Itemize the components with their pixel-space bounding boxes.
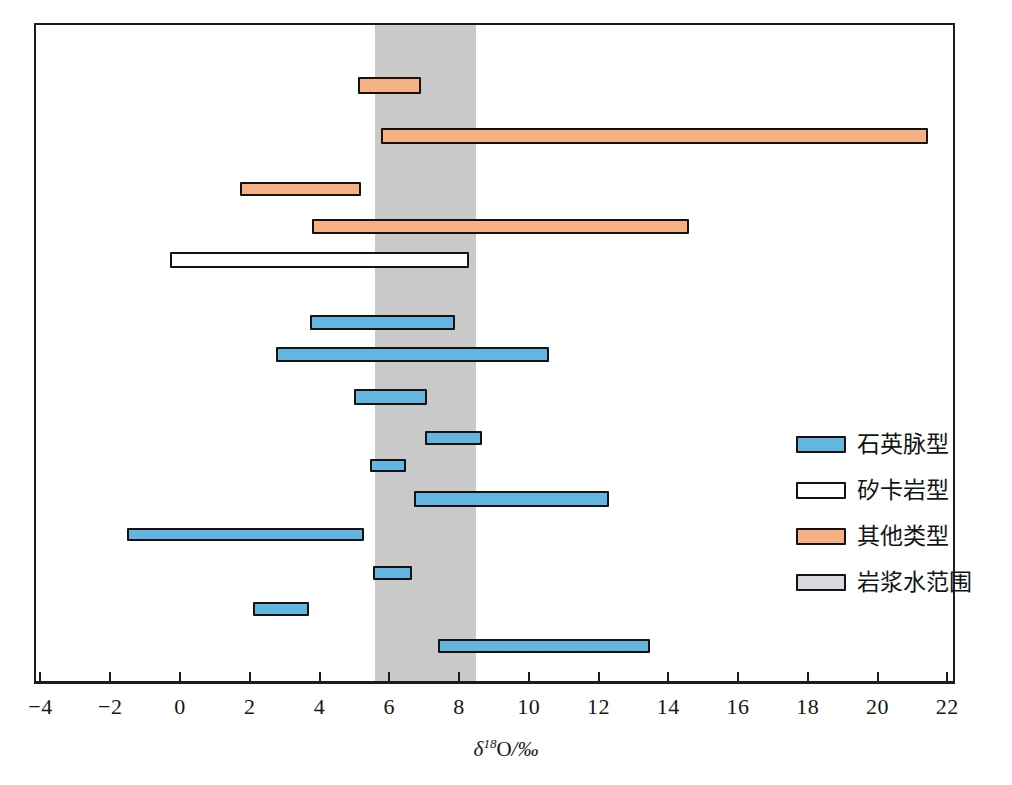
x-axis-tick — [109, 672, 111, 683]
range-bar — [240, 182, 361, 196]
x-axis-tick-label: 22 — [917, 694, 977, 720]
x-axis-tick-label: 8 — [429, 694, 489, 720]
x-axis-tick-label: 0 — [150, 694, 210, 720]
x-axis-tick-label: 6 — [359, 694, 419, 720]
x-axis-tick — [528, 672, 530, 683]
x-axis-tick — [667, 672, 669, 683]
x-axis-title: δ18O/‰ — [0, 736, 1012, 762]
range-bar — [253, 602, 308, 616]
range-bar — [276, 347, 548, 362]
x-axis-tick-label: 14 — [638, 694, 698, 720]
legend-label: 岩浆水范围 — [857, 571, 972, 594]
legend-label: 其他类型 — [857, 525, 949, 548]
legend-label: 石英脉型 — [857, 433, 949, 456]
delta-symbol: δ — [474, 737, 484, 761]
x-axis-tick-label: 10 — [499, 694, 559, 720]
range-bar — [425, 431, 482, 445]
x-axis-tick-label: 20 — [848, 694, 908, 720]
x-axis-tick — [807, 672, 809, 683]
legend-swatch — [796, 482, 846, 499]
x-axis-tick — [319, 672, 321, 683]
x-axis-tick — [737, 672, 739, 683]
range-bar — [373, 566, 412, 580]
isotope-superscript: 18 — [483, 736, 496, 751]
x-axis-tick — [458, 672, 460, 683]
x-axis-tick-label: 16 — [708, 694, 768, 720]
x-axis-tick — [249, 672, 251, 683]
x-axis-tick — [946, 672, 948, 683]
range-bar — [127, 528, 364, 541]
range-bar — [312, 219, 689, 234]
range-bar — [354, 389, 428, 405]
range-bar — [438, 639, 650, 653]
legend-swatch — [796, 528, 846, 545]
x-axis-tick-label: 4 — [290, 694, 350, 720]
x-axis-tick-label: −4 — [10, 694, 70, 720]
x-axis-tick-label: −2 — [80, 694, 140, 720]
range-bar — [358, 77, 421, 94]
legend-item[interactable]: 其他类型 — [796, 524, 949, 548]
x-axis-tick — [388, 672, 390, 683]
x-axis-line — [34, 682, 955, 684]
oxygen-isotope-range-chart: −4−20246810121416182022 δ18O/‰ 石英脉型矽卡岩型其… — [0, 0, 1012, 785]
x-axis-tick — [598, 672, 600, 683]
legend-label: 矽卡岩型 — [857, 479, 949, 502]
legend-item[interactable]: 岩浆水范围 — [796, 570, 972, 594]
legend-swatch — [796, 574, 846, 591]
range-bar — [310, 315, 455, 330]
x-axis-tick-label: 2 — [220, 694, 280, 720]
range-bar — [414, 491, 609, 507]
unit-label: /‰ — [512, 737, 539, 761]
range-bar — [381, 128, 929, 144]
range-bar — [170, 252, 469, 268]
x-axis-tick — [39, 672, 41, 683]
x-axis-tick — [877, 672, 879, 683]
x-axis-tick-label: 18 — [778, 694, 838, 720]
legend-item[interactable]: 石英脉型 — [796, 432, 949, 456]
legend-item[interactable]: 矽卡岩型 — [796, 478, 949, 502]
legend-swatch — [796, 436, 846, 453]
range-bar — [370, 459, 406, 472]
element-symbol: O — [496, 737, 511, 761]
x-axis-tick-label: 12 — [569, 694, 629, 720]
x-axis-tick — [179, 672, 181, 683]
